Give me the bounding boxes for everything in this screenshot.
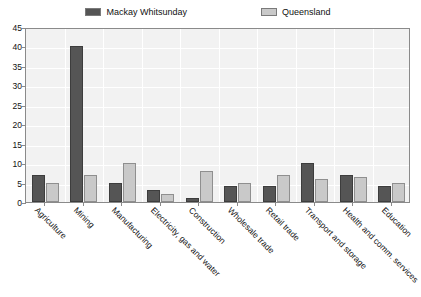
bar bbox=[301, 163, 314, 202]
bar bbox=[277, 175, 290, 202]
bar bbox=[46, 183, 59, 202]
bar-group bbox=[103, 29, 142, 202]
bar bbox=[123, 163, 136, 202]
bars-layer bbox=[26, 29, 409, 202]
bar bbox=[32, 175, 45, 202]
chart-legend: Mackay Whitsunday Queensland bbox=[0, 4, 416, 20]
x-axis: AgricultureMiningManufacturingElectricit… bbox=[25, 203, 410, 297]
bar-group bbox=[65, 29, 104, 202]
y-tick-label: 15 bbox=[13, 140, 22, 149]
bar bbox=[84, 175, 97, 202]
x-tick-mark bbox=[275, 203, 276, 206]
legend-swatch-queensland-icon bbox=[261, 8, 277, 16]
x-tick-label: Retail trade bbox=[264, 205, 302, 243]
y-tick-label: 45 bbox=[13, 24, 22, 33]
bar-group bbox=[180, 29, 219, 202]
x-tick-mark bbox=[121, 203, 122, 206]
x-tick-mark bbox=[391, 203, 392, 206]
bar-group bbox=[334, 29, 373, 202]
x-tick-mark bbox=[198, 203, 199, 206]
x-tick-mark bbox=[352, 203, 353, 206]
x-tick-label: Electricity, gas and water bbox=[149, 205, 222, 278]
x-tick-mark bbox=[314, 203, 315, 206]
bar bbox=[109, 183, 122, 202]
x-tick-label: Health and comm. services bbox=[341, 205, 421, 285]
x-tick-mark bbox=[237, 203, 238, 206]
legend-swatch-mackay-whitsunday-icon bbox=[85, 8, 101, 16]
x-tick-mark bbox=[44, 203, 45, 206]
legend-label-queensland: Queensland bbox=[282, 7, 331, 17]
x-tick-label: Mining bbox=[72, 205, 97, 230]
bar bbox=[186, 198, 199, 202]
y-tick-label: 35 bbox=[13, 62, 22, 71]
bar-group bbox=[257, 29, 296, 202]
bar bbox=[392, 183, 405, 202]
y-tick-label: 40 bbox=[13, 43, 22, 52]
y-tick-label: 20 bbox=[13, 121, 22, 130]
y-axis: 051015202530354045 bbox=[0, 28, 22, 203]
bar bbox=[340, 175, 353, 202]
x-tick-label: Construction bbox=[187, 205, 228, 246]
x-tick-label: Agriculture bbox=[33, 205, 69, 241]
x-tick-mark bbox=[83, 203, 84, 206]
bar bbox=[224, 186, 237, 202]
bar-group bbox=[296, 29, 335, 202]
bar bbox=[200, 171, 213, 202]
legend-entry-mackay-whitsunday: Mackay Whitsunday bbox=[85, 7, 187, 17]
y-tick-label: 30 bbox=[13, 82, 22, 91]
bar bbox=[315, 179, 328, 202]
x-tick-label: Education bbox=[380, 205, 414, 239]
x-tick-mark bbox=[160, 203, 161, 206]
bar bbox=[70, 46, 83, 202]
y-tick-label: 10 bbox=[13, 160, 22, 169]
legend-entry-queensland: Queensland bbox=[261, 7, 331, 17]
bar-group bbox=[373, 29, 412, 202]
plot-area bbox=[25, 28, 410, 203]
bar-group bbox=[142, 29, 181, 202]
bar bbox=[378, 186, 391, 202]
bar bbox=[147, 190, 160, 202]
y-tick-label: 25 bbox=[13, 101, 22, 110]
bar bbox=[354, 177, 367, 202]
bar bbox=[263, 186, 276, 202]
bar-group bbox=[219, 29, 258, 202]
legend-label-mackay-whitsunday: Mackay Whitsunday bbox=[106, 7, 187, 17]
bar-group bbox=[26, 29, 65, 202]
bar bbox=[238, 183, 251, 202]
bar bbox=[161, 194, 174, 202]
